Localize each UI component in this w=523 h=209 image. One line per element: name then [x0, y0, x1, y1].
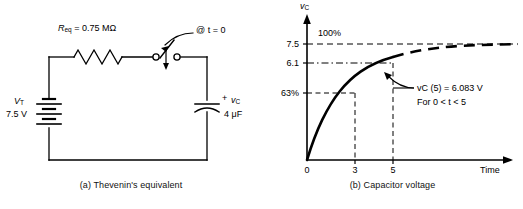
- annotation-voltage-sub: C: [422, 83, 429, 93]
- panel-capacitor-voltage: vC 7.5 6.1 63% 100% 0 3 5 Time vC (5) = …: [262, 0, 523, 209]
- x-axis-label: Time: [480, 166, 500, 175]
- switch-motion-arrowhead: [163, 63, 169, 70]
- panel-a-caption: (a) Thevenin's equivalent: [0, 180, 262, 190]
- xtick-label-3: 3: [343, 165, 367, 175]
- switch-terminal-right: [174, 54, 180, 60]
- panel-thevenin-equivalent: Req = 0.75 MΩ @ t = 0 VT 7.5 V + vC 4 μF…: [0, 0, 262, 209]
- source-name-sub: T: [20, 99, 24, 106]
- xtick-label-0: 0: [295, 165, 319, 175]
- capacitor-value-label: 4 μF: [224, 110, 242, 119]
- y-axis-label: vC: [300, 2, 309, 12]
- curve-dashed-segment: [393, 44, 518, 57]
- annotation-leader: [388, 76, 414, 88]
- capacitor-voltage-chart: [262, 0, 523, 209]
- ytick-label-6-1: 6.1: [262, 58, 299, 68]
- curve-value-annotation: vC (5) = 6.083 V For 0 < t < 5: [417, 82, 483, 110]
- annotation-voltage-value: (5) = 6.083 V: [431, 83, 483, 93]
- curve-value-annotation-line1: vC (5) = 6.083 V: [417, 82, 483, 96]
- curve-alt-helper: [307, 48, 393, 160]
- switch-terminal-left: [153, 54, 159, 60]
- xtick-label-5: 5: [381, 165, 405, 175]
- resistor-label-sub: eq: [65, 26, 72, 33]
- capacitor-voltage-sub: C: [236, 98, 241, 105]
- y-axis-arrowhead: [303, 14, 311, 24]
- curve-value-annotation-line2: For 0 < t < 5: [417, 96, 483, 110]
- resistor-symbol: [74, 50, 122, 64]
- resistor-label: Req = 0.75 MΩ: [58, 24, 116, 34]
- ytick-label-7-5: 7.5: [262, 39, 299, 49]
- switch-note-leader: [165, 33, 193, 45]
- annotation-100-percent: 100%: [318, 28, 341, 38]
- curve-solid-segment: [307, 57, 393, 160]
- source-name-label: VT: [14, 97, 24, 107]
- x-axis-arrowhead: [503, 156, 513, 164]
- y-axis-sub: C: [305, 4, 310, 11]
- resistor-label-value: = 0.75 MΩ: [74, 23, 116, 33]
- source-value-label: 7.5 V: [6, 110, 27, 119]
- ytick-label-63pct: 63%: [262, 88, 299, 98]
- capacitor-polarity-label: +: [222, 94, 227, 103]
- panel-b-caption: (b) Capacitor voltage: [262, 180, 523, 190]
- switch-time-note: @ t = 0: [196, 26, 225, 35]
- figure-container: Req = 0.75 MΩ @ t = 0 VT 7.5 V + vC 4 μF…: [0, 0, 523, 209]
- capacitor-voltage-label: vC: [231, 96, 240, 106]
